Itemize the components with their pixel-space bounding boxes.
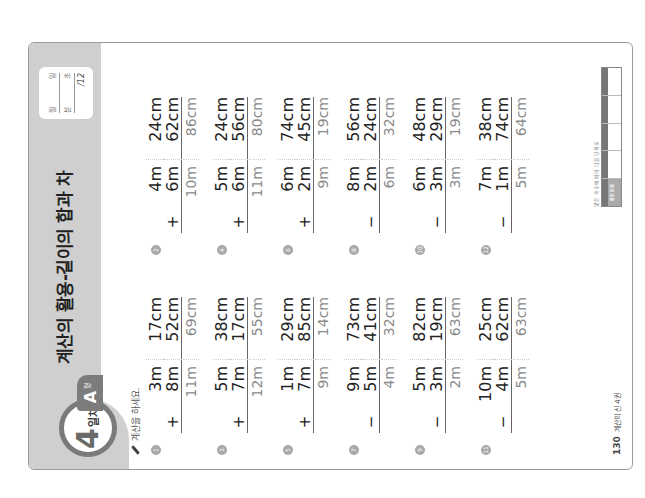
- guide-cell: [602, 95, 621, 123]
- answer-cm[interactable]: 55cm: [249, 297, 265, 359]
- operand-b-m: 2m: [361, 159, 380, 211]
- score-row: /12: [75, 73, 88, 113]
- page-number: 130: [612, 436, 622, 455]
- answer-m[interactable]: 9m: [315, 159, 331, 211]
- answer-m[interactable]: 12m: [249, 359, 265, 411]
- operator: −: [362, 411, 380, 433]
- problem-number: 7: [349, 445, 359, 455]
- problem-4: 4 5m24cm +6m56cm 11m80cm: [213, 55, 279, 255]
- vertical-calc: 6m48cm −3m29cm 3m19cm: [411, 83, 463, 233]
- operand-b-cm: 62cm: [163, 97, 182, 159]
- answer-cm[interactable]: 19cm: [315, 97, 331, 159]
- answer-m[interactable]: 2m: [447, 359, 463, 411]
- instruction-text: 계산을 하세요.: [129, 387, 142, 441]
- pencil-icon: [131, 445, 140, 455]
- operand-b-m: 3m: [427, 359, 446, 411]
- problem-number: 9: [415, 445, 425, 455]
- answer-cm[interactable]: 19cm: [447, 97, 463, 159]
- answer-cm[interactable]: 86cm: [183, 97, 199, 159]
- problem-10: 10 6m48cm −3m29cm 3m19cm: [411, 55, 477, 255]
- level-tab: A 형: [77, 375, 103, 411]
- operand-b-m: 7m: [229, 359, 248, 411]
- vertical-calc: 3m17cm +8m52cm 11m69cm: [147, 283, 199, 433]
- answer-m[interactable]: 5m: [513, 359, 529, 411]
- answer-cm[interactable]: 69cm: [183, 297, 199, 359]
- answer-m[interactable]: 10m: [183, 159, 199, 211]
- answer-cm[interactable]: 64cm: [513, 97, 529, 159]
- operator: −: [428, 211, 446, 233]
- answer-cm[interactable]: 63cm: [447, 297, 463, 359]
- operand-b-m: 7m: [295, 359, 314, 411]
- problem-row: 7 9m73cm −5m41cm 4m32cm 8 8m56cm −2m24cm…: [345, 55, 411, 455]
- guide-cell: [602, 123, 621, 151]
- operator: +: [296, 411, 314, 433]
- answer-cm[interactable]: 32cm: [381, 297, 397, 359]
- operand-b-cm: 45cm: [295, 97, 314, 159]
- day-number: 4: [73, 428, 103, 449]
- operator: +: [230, 211, 248, 233]
- problem-number: 3: [217, 445, 227, 455]
- problem-number: 10: [415, 245, 425, 255]
- score-total: /12: [77, 73, 86, 86]
- vertical-calc: 10m25cm −4m62cm 5m63cm: [477, 283, 529, 433]
- problem-row: 11 10m25cm −4m62cm 5m63cm 12 7m38cm −1m7…: [477, 55, 543, 455]
- problem-1: 1 3m17cm +8m52cm 11m69cm: [147, 255, 213, 455]
- vertical-calc: 4m24cm +6m62cm 10m86cm: [147, 83, 199, 233]
- guide-table: 틀린 문제: [601, 67, 622, 207]
- answer-cm[interactable]: 14cm: [315, 297, 331, 359]
- answer-cm[interactable]: 80cm: [249, 97, 265, 159]
- page-footer: 130 계산의 신 4권: [612, 393, 622, 455]
- operand-b-cm: 29cm: [427, 97, 446, 159]
- answer-m[interactable]: 4m: [381, 359, 397, 411]
- day-label: 일: [47, 73, 57, 79]
- operand-b-cm: 56cm: [229, 97, 248, 159]
- problem-number: 12: [481, 245, 491, 255]
- problem-number: 2: [151, 245, 161, 255]
- guide-cell: 틀린 문제: [602, 178, 621, 206]
- answer-cm[interactable]: 32cm: [381, 97, 397, 159]
- operand-b-cm: 24cm: [361, 97, 380, 159]
- operator: +: [296, 211, 314, 233]
- vertical-calc: 7m38cm −1m74cm 5m64cm: [477, 83, 529, 233]
- vertical-calc: 5m82cm −3m19cm 2m63cm: [411, 283, 463, 433]
- answer-m[interactable]: 6m: [381, 159, 397, 211]
- operand-b-cm: 74cm: [493, 97, 512, 159]
- problem-3: 3 5m38cm +7m17cm 12m55cm: [213, 255, 279, 455]
- problem-5: 5 1m29cm +7m85cm 9m14cm: [279, 255, 345, 455]
- operator: −: [494, 211, 512, 233]
- problem-number: 4: [217, 245, 227, 255]
- operator: −: [494, 411, 512, 433]
- operand-b-cm: 52cm: [163, 297, 182, 359]
- answer-m[interactable]: 11m: [249, 159, 265, 211]
- vertical-calc: 5m38cm +7m17cm 12m55cm: [213, 283, 265, 433]
- answer-m[interactable]: 9m: [315, 359, 331, 411]
- operand-b-m: 8m: [163, 359, 182, 411]
- time-row: 분 초: [60, 73, 75, 113]
- progress-guide: 맞은 개수에 따라 다음 단계로 틀린 문제: [592, 67, 622, 207]
- date-row: 월 일: [45, 73, 60, 113]
- vertical-calc: 1m29cm +7m85cm 9m14cm: [279, 283, 331, 433]
- answer-cm[interactable]: 63cm: [513, 297, 529, 359]
- problem-row: 3 5m38cm +7m17cm 12m55cm 4 5m24cm +6m56c…: [213, 55, 279, 455]
- level-letter: A: [81, 391, 100, 403]
- operand-b-m: 3m: [427, 159, 446, 211]
- operand-b-m: 6m: [163, 159, 182, 211]
- guide-caption: 맞은 개수에 따라 다음 단계로: [592, 67, 599, 207]
- problem-number: 6: [283, 245, 293, 255]
- minute-label: 분: [62, 107, 72, 113]
- operand-b-m: 2m: [295, 159, 314, 211]
- operand-b-m: 5m: [361, 359, 380, 411]
- answer-m[interactable]: 11m: [183, 359, 199, 411]
- score-box: 월 일 분 초 /12: [39, 67, 93, 119]
- operand-b-cm: 62cm: [493, 297, 512, 359]
- guide-cell: [602, 68, 621, 95]
- answer-m[interactable]: 5m: [513, 159, 529, 211]
- problem-8: 8 8m56cm −2m24cm 6m32cm: [345, 55, 411, 255]
- problem-number: 1: [151, 445, 161, 455]
- answer-m[interactable]: 3m: [447, 159, 463, 211]
- operand-b-cm: 17cm: [229, 297, 248, 359]
- page-title: 계산의 활용-길이의 합과 차: [51, 171, 76, 364]
- operator: +: [164, 211, 182, 233]
- month-label: 월: [47, 107, 57, 113]
- operator: +: [230, 411, 248, 433]
